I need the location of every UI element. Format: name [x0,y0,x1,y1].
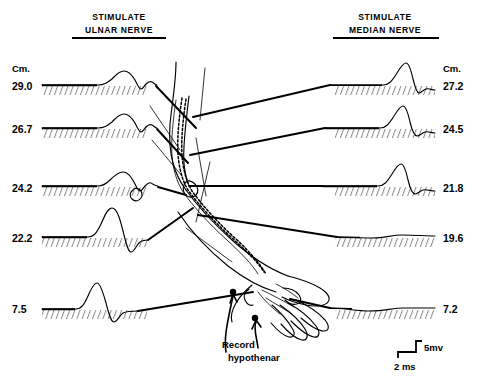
right-distance-label-2: 21.8 [443,182,464,194]
right-heading-line1: STIMULATE [358,12,411,22]
record-label-line1: Record [222,339,255,350]
ulnar-baseline-hatch-3 [42,238,147,247]
right-unit-label: Cm. [443,63,461,74]
right-heading-line2: MEDIAN NERVE [349,25,421,35]
left-unit-label: Cm. [12,63,30,74]
left-distance-label-0: 29.0 [12,80,33,92]
left-distance-label-2: 24.2 [12,182,33,194]
record-label-line2: hypothenar [228,352,280,363]
median-baseline-hatch-0 [335,86,435,95]
left-distance-label-1: 26.7 [12,123,33,135]
ulnar-baseline-hatch-0 [42,86,147,95]
median-baseline-hatch-4 [335,310,435,319]
right-distance-label-0: 27.2 [443,80,464,92]
electrode-marker-2 [252,315,258,321]
left-heading-line2: ULNAR NERVE [85,25,153,35]
left-heading-line1: STIMULATE [92,12,145,22]
calibration-time-label: 2 ms [394,361,416,372]
right-distance-label-1: 24.5 [443,123,464,135]
right-distance-label-3: 19.6 [443,232,464,244]
left-distance-label-4: 7.5 [12,303,27,315]
median-baseline-hatch-3 [335,238,435,247]
nerve-conduction-figure: STIMULATE ULNAR NERVE STIMULATE MEDIAN N… [0,0,482,379]
ulnar-baseline-hatch-1 [42,129,147,138]
calibration-amplitude-label: 5mv [424,342,444,353]
right-distance-label-4: 7.2 [443,303,458,315]
left-distance-label-3: 22.2 [12,232,33,244]
median-baseline-hatch-1 [335,129,435,138]
